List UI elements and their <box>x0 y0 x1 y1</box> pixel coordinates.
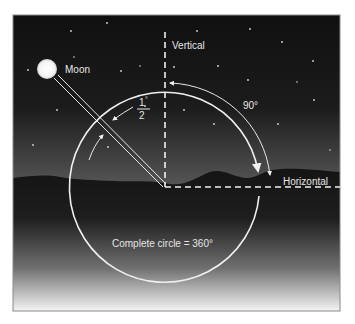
fraction-degree: ° <box>145 96 148 103</box>
complete-circle-label: Complete circle = 360° <box>112 238 213 249</box>
horizontal-label: Horizontal <box>283 176 328 187</box>
moon-icon <box>37 59 57 79</box>
fraction-denominator: 2 <box>139 110 145 121</box>
moon-angle-diagram: Moon Vertical Horizontal 90° 1 ° 2 Compl… <box>0 0 355 324</box>
moon-label: Moon <box>65 64 90 75</box>
right-angle-label: 90° <box>243 100 258 111</box>
vertical-label: Vertical <box>172 40 205 51</box>
